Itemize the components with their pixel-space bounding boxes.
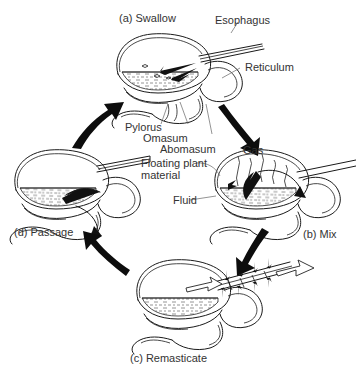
fluid-label: Fluid <box>173 194 197 206</box>
stage-c-remasticate-drawing <box>132 258 314 354</box>
esophagus-label: Esophagus <box>215 14 270 26</box>
stage-b-label: (b) Mix <box>303 228 337 240</box>
floating-plant-material-label: Floating plant material <box>141 157 209 181</box>
reticulum-label: Reticulum <box>245 61 294 73</box>
stage-c-label: (c) Remasticate <box>130 352 207 364</box>
cycle-arrow-c-to-d[interactable] <box>83 231 130 276</box>
cycle-arrow-d-to-a[interactable] <box>72 102 124 149</box>
gas-label: Gas <box>243 144 263 156</box>
diagram-canvas <box>0 0 356 373</box>
stage-a-label: (a) Swallow <box>119 12 176 24</box>
stage-a-swallow-drawing <box>112 34 264 128</box>
abomasum-label: Abomasum <box>160 143 216 155</box>
stage-d-label: (d) Passage <box>14 226 73 238</box>
ruminant-digestion-figure: (a) Swallow Esophagus Reticulum Pylorus … <box>0 0 356 373</box>
